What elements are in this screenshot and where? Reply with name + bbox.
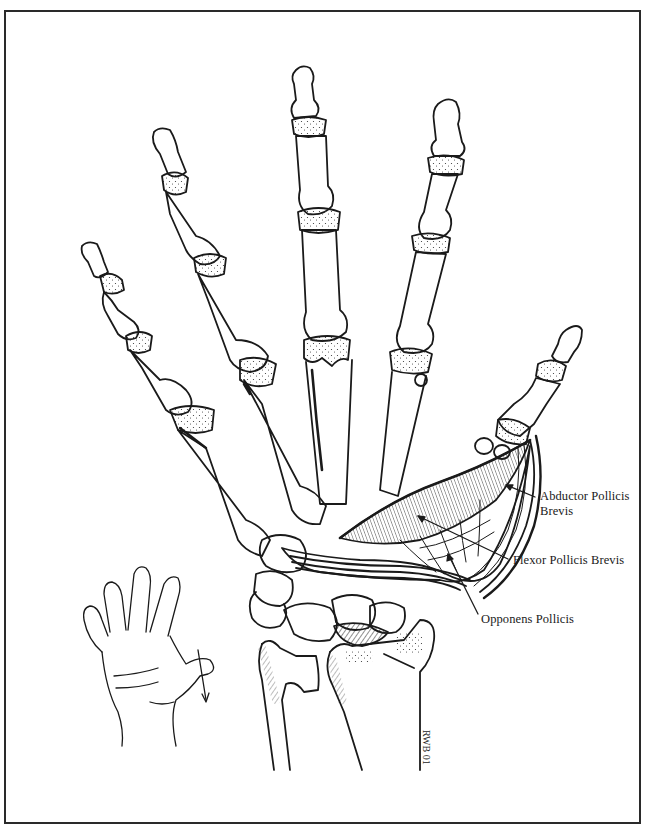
artist-signature: RWB 01 [421, 730, 432, 765]
signature-year: 01 [421, 755, 432, 765]
label-opponens-pollicis: Opponens Pollicis [481, 612, 574, 627]
middle-finger-bones [291, 66, 352, 504]
little-finger-bones [82, 242, 270, 556]
label-abductor-line2: Brevis [540, 504, 630, 519]
label-abductor-line1: Abductor Pollicis [540, 489, 630, 504]
index-finger-bones [380, 99, 465, 496]
signature-initials: RWB [421, 730, 432, 752]
inset-hand-sketch [84, 567, 214, 746]
hand-skeleton-illustration [0, 0, 647, 831]
thumb-bones [475, 326, 582, 459]
label-abductor-pollicis-brevis: Abductor Pollicis Brevis [540, 489, 630, 519]
label-flexor-pollicis-brevis: Flexor Pollicis Brevis [513, 553, 624, 568]
carpal-bones [250, 535, 405, 646]
